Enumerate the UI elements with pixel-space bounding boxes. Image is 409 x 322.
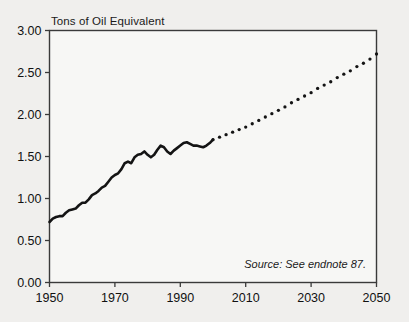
projection-dot (342, 73, 345, 76)
y-tick-label: 2.00 (17, 108, 41, 122)
projection-dot (336, 76, 339, 79)
projection-dot (218, 136, 221, 139)
y-tick-label: 0.50 (17, 234, 41, 248)
oil-equivalent-line-chart: Tons of Oil Equivalent 3.002.502.001.501… (0, 0, 409, 322)
x-tick-label: 1970 (101, 291, 129, 305)
projection-dot (375, 52, 378, 55)
projection-dot (238, 128, 241, 131)
source-annotation: Source: See endnote 87. (244, 258, 366, 270)
y-tick-label: 3.00 (17, 24, 41, 38)
projection-dot (349, 69, 352, 72)
y-axis-title: Tons of Oil Equivalent (51, 15, 165, 27)
projection-dot (316, 87, 319, 90)
projection-dot (231, 130, 234, 133)
projection-dot (329, 80, 332, 83)
y-tick-label: 0.00 (17, 276, 41, 290)
y-tick-label: 1.50 (17, 150, 41, 164)
projection-dot (355, 65, 358, 68)
plot-frame (50, 31, 377, 283)
projection-dot (283, 105, 286, 108)
projection-dot (323, 83, 326, 86)
projection-dot (264, 115, 267, 118)
projection-dot (270, 112, 273, 115)
projection-dot (244, 125, 247, 128)
x-tick-label: 2030 (297, 291, 325, 305)
projection-dot (257, 119, 260, 122)
projection-dot (368, 57, 371, 60)
projection-dot (362, 62, 365, 65)
projection-dot (224, 133, 227, 136)
projection-dot (309, 91, 312, 94)
projection-dot (303, 94, 306, 97)
chart-container: Tons of Oil Equivalent 3.002.502.001.501… (0, 0, 409, 322)
projection-dot (290, 101, 293, 104)
x-tick-label: 2050 (363, 291, 391, 305)
x-tick-label: 1950 (36, 291, 64, 305)
projection-dot (277, 109, 280, 112)
projection-dot (251, 122, 254, 125)
y-tick-label: 2.50 (17, 66, 41, 80)
x-tick-label: 2010 (232, 291, 260, 305)
y-tick-label: 1.00 (17, 192, 41, 206)
x-tick-label: 1990 (166, 291, 194, 305)
projection-dot (211, 138, 214, 141)
projection-dot (296, 98, 299, 101)
